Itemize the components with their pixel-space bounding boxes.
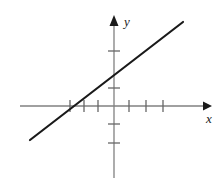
y-axis-label: y	[122, 14, 130, 29]
coordinate-plane-svg: y x	[0, 0, 224, 189]
graph-figure: y x	[0, 0, 224, 189]
figure-background	[0, 0, 224, 189]
x-axis-label: x	[205, 111, 212, 126]
